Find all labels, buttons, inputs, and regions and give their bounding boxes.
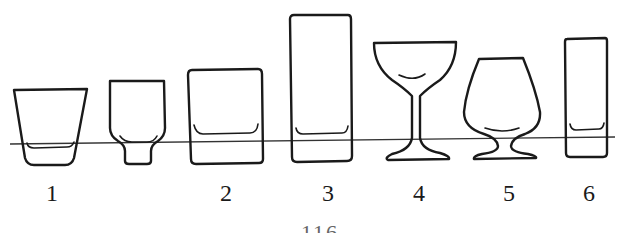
label-glass-3: 3 bbox=[322, 181, 334, 205]
label-glass-2: 2 bbox=[220, 181, 232, 205]
glass-6-tall-shot bbox=[565, 38, 607, 157]
glass-1-tapered-tumbler bbox=[14, 89, 87, 165]
glassware-illustration bbox=[0, 0, 621, 233]
glassware-figure: 1 2 3 4 5 6 116 bbox=[0, 0, 621, 233]
glass-5-snifter bbox=[464, 58, 540, 159]
label-glass-6: 6 bbox=[583, 181, 595, 205]
glass-2-rocks-glass bbox=[188, 69, 263, 164]
label-glass-4: 4 bbox=[413, 181, 425, 205]
glass-4-coupe bbox=[374, 42, 456, 160]
label-glass-5: 5 bbox=[503, 181, 515, 205]
table-baseline bbox=[10, 137, 615, 144]
page-number: 116 bbox=[301, 222, 339, 233]
label-glass-1: 1 bbox=[46, 181, 58, 205]
glass-unlabeled-footed-tumbler bbox=[110, 81, 165, 164]
